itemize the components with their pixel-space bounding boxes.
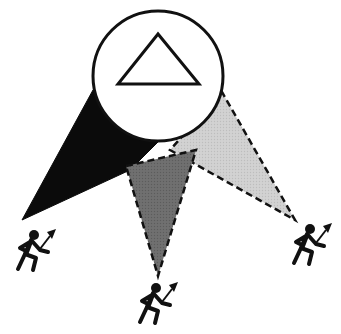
center-cone: [126, 150, 196, 276]
runner-with-torch-icon: [140, 282, 178, 323]
runner-with-torch-icon: [18, 229, 56, 270]
runner-with-torch-icon: [294, 223, 332, 264]
diagram-canvas: [0, 0, 341, 334]
